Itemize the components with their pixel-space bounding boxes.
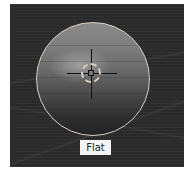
3d-viewport[interactable]: Flat bbox=[10, 4, 184, 167]
object-origin-icon bbox=[88, 70, 94, 76]
3d-cursor-icon[interactable] bbox=[67, 49, 117, 99]
face-band bbox=[37, 109, 149, 110]
face-band bbox=[37, 45, 149, 46]
shading-mode-label: Flat bbox=[80, 140, 111, 155]
